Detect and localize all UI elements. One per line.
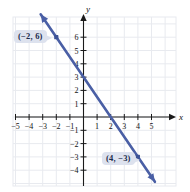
y-tick-label: 3 <box>75 73 79 82</box>
callout-tail-a <box>46 35 52 41</box>
y-tick-label: 5 <box>75 47 79 56</box>
callout-tail-b <box>134 157 140 163</box>
x-tick-label: 4 <box>136 122 140 131</box>
y-tick-label: −4 <box>70 166 79 175</box>
x-tick-label: −4 <box>25 122 34 131</box>
point-label-a-text: (−2, 6) <box>18 31 43 41</box>
point-label-b-text: (4, −3) <box>106 153 131 163</box>
x-tick-label: 2 <box>109 122 113 131</box>
y-tick-label: −3 <box>70 153 79 162</box>
point-marker-a <box>54 35 58 39</box>
x-tick-label: 1 <box>95 122 99 131</box>
y-tick-label: 1 <box>75 100 79 109</box>
x-tick-label: 3 <box>122 122 126 131</box>
x-tick-label: −2 <box>52 122 61 131</box>
x-tick-label: −3 <box>38 122 47 131</box>
y-axis-label: y <box>85 4 90 14</box>
coordinate-plane-graph: −5−4−3−2−112345654321−1−2−3−4 x y (−2, 6… <box>0 0 190 192</box>
y-tick-label: −2 <box>70 140 79 149</box>
y-tick-label: −1 <box>70 126 79 135</box>
x-tick-label: −5 <box>11 122 20 131</box>
y-tick-label: 6 <box>75 33 79 42</box>
x-tick-label: 5 <box>150 122 154 131</box>
y-tick-label: 2 <box>75 86 79 95</box>
plot-area: −5−4−3−2−112345654321−1−2−3−4 x y <box>0 0 190 192</box>
x-axis-label: x <box>178 112 183 122</box>
point-label-b: (4, −3) <box>102 152 135 165</box>
point-label-a: (−2, 6) <box>14 30 47 43</box>
